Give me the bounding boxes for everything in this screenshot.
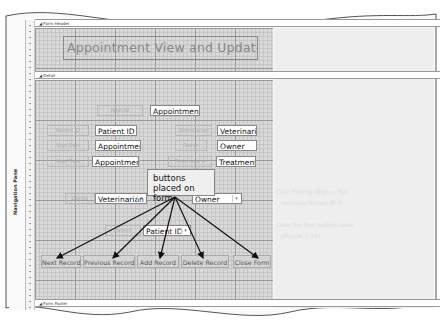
bleed-text: contains Brown M-H [282, 199, 342, 206]
appt-date-field[interactable]: Appointment [95, 140, 141, 151]
form-header-section: Appointment View and Update Form [35, 28, 273, 71]
navigation-pane[interactable]: Navigation Pane [9, 20, 26, 310]
navigation-pane-label: Navigation Pane [12, 169, 18, 215]
appt-date-label[interactable]: Appt Date [47, 140, 89, 151]
veterinarian-label[interactable]: Veterinarian [175, 125, 212, 136]
chevron-down-icon[interactable]: ▾ [181, 227, 189, 234]
doctor-combo[interactable]: Veterinarian ▾ [95, 193, 147, 204]
form-footer-bar[interactable]: ◢ Form Footer [35, 299, 440, 307]
owner-field[interactable]: Owner [217, 140, 257, 151]
veterinarian-field[interactable]: Veterinaria [217, 125, 257, 136]
form-footer-label: Form Footer [43, 301, 67, 306]
close-form-button[interactable]: Close Form [233, 255, 271, 268]
bleed-text: Click First to display the [276, 188, 348, 195]
screenshot-page: Navigation Pane Click First to display t… [0, 0, 446, 324]
form-title-label[interactable]: Appointment View and Update Form [63, 36, 258, 60]
appt-time-label[interactable]: Appt Time [47, 156, 89, 167]
owner-label[interactable]: Owner [175, 140, 207, 151]
owner-combo-value: Owner [195, 195, 220, 204]
treatment-label[interactable]: Treatment # [168, 156, 212, 167]
add-record-button[interactable]: Add Record [137, 255, 179, 268]
treatment-field[interactable]: Treatment t [216, 156, 256, 167]
patient-combo[interactable]: Patient ID ▾ [143, 225, 191, 236]
form-header-label: Form Header [43, 21, 69, 26]
bleed-text: Click the first button label [276, 221, 354, 228]
next-record-button[interactable]: Next Record [41, 255, 81, 268]
appt-time-field[interactable]: Appointment [92, 156, 139, 167]
bleed-text: (Figure 7-24) [282, 232, 321, 239]
chevron-down-icon[interactable]: ▾ [232, 195, 240, 202]
delete-record-button[interactable]: Delete Record [181, 255, 229, 268]
form-header-bar[interactable]: ◢ Form Header [35, 19, 440, 27]
appt-id-field[interactable]: Appointmen [150, 105, 200, 116]
patient-combo-value: Patient ID [146, 227, 183, 236]
callout-box: buttons placed on form [147, 169, 215, 196]
appt-id-label[interactable]: Appt ID [97, 105, 143, 116]
patient-label[interactable]: Patient [105, 225, 141, 236]
patient-id-field[interactable]: Patient ID [95, 125, 137, 136]
doctor-label[interactable]: Doctor [65, 193, 95, 204]
chevron-down-icon[interactable]: ▾ [137, 195, 145, 202]
detail-bar[interactable]: ◢ Detail [35, 71, 440, 79]
previous-record-button[interactable]: Previous Record [83, 255, 135, 268]
patient-id-label[interactable]: Patient ID [47, 125, 89, 136]
form-design-surface: ◢ Form Header Appointment View and Updat… [35, 14, 273, 314]
design-empty-area: Click First to display the contains Brow… [274, 28, 434, 308]
detail-label: Detail [43, 73, 55, 78]
vertical-ruler [26, 20, 35, 310]
